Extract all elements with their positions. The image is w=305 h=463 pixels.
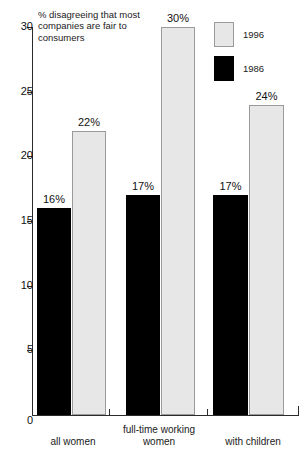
y-tick-label-25: 25 — [11, 86, 33, 97]
category-label-with-children: with children — [206, 436, 300, 448]
bar-with-children-1986[interactable] — [213, 195, 248, 415]
bar-label-all-women-1986: 16% — [37, 194, 71, 205]
category-label-all-women: all women — [30, 436, 116, 448]
y-tick-label-0: 0 — [11, 415, 33, 426]
bar-chart: % disagreeing that most companies are fa… — [0, 0, 305, 463]
bar-label-all-women-1996: 22% — [72, 117, 106, 128]
y-tick-label-20: 20 — [11, 150, 33, 161]
category-label-fulltime-working-women-line1: full-time working — [110, 424, 208, 436]
bar-with-children-1996[interactable] — [249, 105, 284, 415]
y-tick-label-5: 5 — [11, 344, 33, 355]
y-tick-label-10: 10 — [11, 280, 33, 291]
bar-label-with-children-1986: 17% — [213, 181, 248, 192]
category-label-fulltime-working-women-line2: women — [110, 436, 208, 448]
bar-label-fulltime-working-women-1986: 17% — [126, 181, 160, 192]
bar-label-with-children-1996: 24% — [249, 91, 284, 102]
y-tick-label-15: 15 — [11, 215, 33, 226]
bar-label-fulltime-working-women-1996: 30% — [161, 13, 195, 24]
x-axis-line — [32, 415, 299, 416]
plot-area: 16% 22% 17% 30% 17% 24% — [33, 27, 299, 415]
bar-fulltime-working-women-1996[interactable] — [161, 27, 195, 415]
bar-fulltime-working-women-1986[interactable] — [126, 195, 160, 415]
bar-all-women-1996[interactable] — [72, 131, 106, 415]
bar-all-women-1986[interactable] — [37, 208, 71, 415]
y-tick-label-30: 30 — [11, 21, 33, 32]
